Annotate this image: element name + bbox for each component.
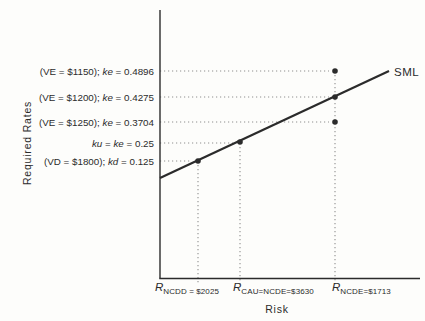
x-axis-labels: RNCDD = $2025 RCAU=NCDE=$3630 RNCDE=$171… <box>155 281 391 296</box>
y-label-kd-0.125: (VD = $1800); kd = 0.125 <box>44 156 155 167</box>
sml-chart-page: (VE = $1150); ke = 0.4896 (VE = $1200); … <box>0 0 425 321</box>
x-axis-title: Risk <box>265 303 289 315</box>
data-point-ku-0.25 <box>237 139 243 145</box>
x-label-ncde: RNCDE=$1713 <box>332 281 391 296</box>
sml-line <box>160 71 389 178</box>
y-axis-labels: (VE = $1150); ke = 0.4896 (VE = $1200); … <box>39 66 155 167</box>
y-label-ku-0.25: ku = ke = 0.25 <box>92 138 155 149</box>
data-point-ke-0.3704 <box>332 119 338 125</box>
horizontal-dotted-guides <box>160 71 329 161</box>
y-label-ke-0.4896: (VE = $1150); ke = 0.4896 <box>40 66 155 77</box>
data-points <box>195 68 338 164</box>
data-point-kd-0.125 <box>195 158 201 164</box>
data-point-ke-0.4896 <box>332 68 338 74</box>
x-label-cau-ncde: RCAU=NCDE=$3630 <box>233 281 314 296</box>
y-axis-title: Required Rates <box>21 101 33 185</box>
x-label-ncdd: RNCDD = $2025 <box>155 281 219 296</box>
sml-line-label: SML <box>394 66 419 78</box>
y-label-ke-0.3704: (VE = $1250); ke = 0.3704 <box>39 117 154 128</box>
y-label-ke-0.4275: (VE = $1200); ke = 0.4275 <box>39 92 154 103</box>
data-point-ke-0.4275 <box>332 94 338 100</box>
sml-chart: (VE = $1150); ke = 0.4896 (VE = $1200); … <box>0 0 425 321</box>
